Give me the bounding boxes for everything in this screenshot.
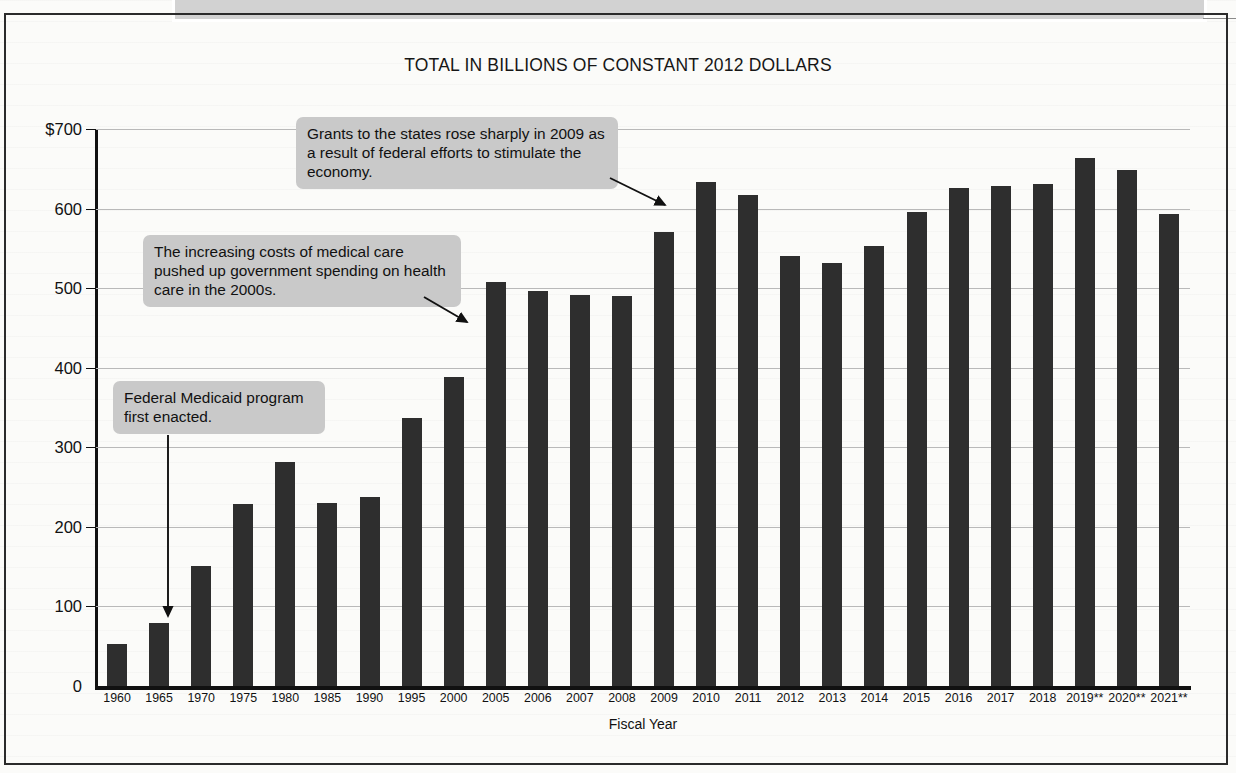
y-axis-tick-label: 200 xyxy=(54,517,82,536)
y-axis-tick xyxy=(86,288,95,289)
bar xyxy=(696,182,716,686)
y-axis-tick xyxy=(86,606,95,607)
x-axis-title: Fiscal Year xyxy=(96,716,1190,732)
bar xyxy=(233,504,253,686)
x-axis-tick-label: 2014 xyxy=(853,691,895,705)
x-axis-tick-label: 2020** xyxy=(1106,691,1148,705)
x-axis-tick-label: 1985 xyxy=(306,691,348,705)
y-axis-tick xyxy=(86,527,95,528)
x-axis-tick-label: 2012 xyxy=(769,691,811,705)
bar xyxy=(864,246,884,686)
x-axis-tick-label: 2019** xyxy=(1064,691,1106,705)
y-axis-tick-label: 400 xyxy=(54,358,82,377)
bar xyxy=(107,644,127,686)
bar xyxy=(738,195,758,686)
bar xyxy=(275,462,295,686)
y-axis-tick-label: 500 xyxy=(54,279,82,298)
bar xyxy=(1159,214,1179,686)
bar xyxy=(654,232,674,686)
bar xyxy=(907,212,927,686)
x-axis-tick-label: 2007 xyxy=(559,691,601,705)
x-axis-tick-label: 1975 xyxy=(222,691,264,705)
y-axis-tick xyxy=(86,129,95,130)
x-axis-line xyxy=(95,686,1191,690)
x-axis-tick-label: 2021** xyxy=(1148,691,1190,705)
bar xyxy=(317,503,337,686)
x-axis-tick-label: 2015 xyxy=(895,691,937,705)
x-axis-tick-label: 1990 xyxy=(348,691,390,705)
x-axis-tick-label: 1980 xyxy=(264,691,306,705)
bar xyxy=(191,566,211,686)
bar xyxy=(822,263,842,686)
x-axis-tick-label: 2013 xyxy=(811,691,853,705)
bar xyxy=(570,295,590,686)
y-axis-tick xyxy=(86,209,95,210)
bar xyxy=(949,188,969,686)
annotation-callout-medicaid: Federal Medicaid program first enacted. xyxy=(113,381,325,434)
x-axis-tick-label: 2018 xyxy=(1022,691,1064,705)
y-axis-tick-label: 300 xyxy=(54,438,82,457)
x-axis-tick-label: 1960 xyxy=(96,691,138,705)
x-axis-tick-label: 1965 xyxy=(138,691,180,705)
y-axis-tick-label: $700 xyxy=(45,120,82,139)
annotation-callout-2009: Grants to the states rose sharply in 200… xyxy=(296,117,618,189)
bar xyxy=(1117,170,1137,686)
y-axis-tick-label: 600 xyxy=(54,199,82,218)
bar xyxy=(1033,184,1053,686)
x-axis-tick-label: 2006 xyxy=(517,691,559,705)
bar xyxy=(149,623,169,686)
x-axis-tick-label: 2005 xyxy=(475,691,517,705)
bar xyxy=(991,186,1011,686)
x-axis-tick-label: 1995 xyxy=(391,691,433,705)
y-axis-tick-label: 100 xyxy=(54,597,82,616)
x-axis-tick-label: 2011 xyxy=(727,691,769,705)
y-axis-tick xyxy=(86,447,95,448)
chart-title: TOTAL IN BILLIONS OF CONSTANT 2012 DOLLA… xyxy=(0,55,1236,76)
bar xyxy=(486,282,506,686)
x-axis-tick-label: 1970 xyxy=(180,691,222,705)
x-axis-tick-label: 2008 xyxy=(601,691,643,705)
bar xyxy=(402,418,422,686)
bar xyxy=(360,497,380,686)
bar xyxy=(444,377,464,686)
bar xyxy=(780,256,800,686)
x-axis-tick-label: 2016 xyxy=(938,691,980,705)
y-axis-tick xyxy=(86,368,95,369)
x-axis-tick-label: 2010 xyxy=(685,691,727,705)
x-axis-tick-label: 2009 xyxy=(643,691,685,705)
bar xyxy=(1075,158,1095,686)
bar xyxy=(612,296,632,686)
bar xyxy=(528,291,548,686)
y-axis-tick-label: 0 xyxy=(73,677,82,696)
annotation-callout-health-care: The increasing costs of medical care pus… xyxy=(143,235,461,307)
x-axis-tick-label: 2017 xyxy=(980,691,1022,705)
x-axis-tick-label: 2000 xyxy=(433,691,475,705)
